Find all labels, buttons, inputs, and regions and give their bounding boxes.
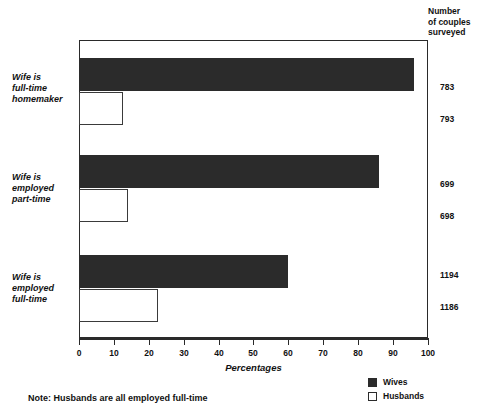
category-label-line: Wife is [12,172,78,183]
x-axis-tick-label: 100 [421,348,435,358]
category-label-line: full-time [12,83,78,94]
x-axis-tick-label: 0 [77,348,82,358]
category-label-full-time: Wife is employed full-time [12,272,78,305]
legend-swatch-icon-husbands [368,392,377,401]
count-husbands-homemaker: 793 [440,114,484,124]
category-label-line: Wife is [12,272,78,283]
x-axis-tick-label: 70 [318,348,327,358]
x-axis-tick-label: 80 [353,348,362,358]
category-label-homemaker: Wife is full-time homemaker [12,72,78,105]
count-wives-full-time: 1194 [440,270,484,280]
x-axis-tick-label: 90 [388,348,397,358]
legend-label-husbands: Husbands [383,391,424,401]
bar-wives-homemaker[interactable] [79,58,414,91]
count-husbands-part-time: 698 [440,211,484,221]
category-label-part-time: Wife is employed part-time [12,172,78,205]
x-axis-tick [149,338,150,345]
bar-chart-figure: Number of couples surveyed Wife is full-… [0,0,488,419]
x-axis-tick [428,338,429,345]
right-axis-header: Number of couples surveyed [428,6,486,38]
bar-wives-part-time[interactable] [79,155,379,188]
x-axis-tick [184,338,185,345]
legend-item-wives[interactable]: Wives [368,377,424,387]
bar-husbands-part-time[interactable] [79,189,128,222]
x-axis-tick-label: 50 [248,348,257,358]
count-husbands-full-time: 1186 [440,302,484,312]
x-axis-title: Percentages [79,362,428,373]
chart-note: Note: Husbands are all employed full-tim… [28,393,208,403]
bar-husbands-homemaker[interactable] [79,92,123,125]
category-label-line: Wife is [12,72,78,83]
x-axis-tick-label: 60 [283,348,292,358]
x-axis-tick-label: 20 [144,348,153,358]
chart-legend: Wives Husbands [368,377,424,405]
category-label-line: employed [12,183,78,194]
x-axis-tick [358,338,359,345]
x-axis-tick [114,338,115,345]
legend-label-wives: Wives [383,377,408,387]
x-axis-tick [253,338,254,345]
x-axis-tick [219,338,220,345]
category-label-line: full-time [12,294,78,305]
legend-item-husbands[interactable]: Husbands [368,391,424,401]
category-label-line: part-time [12,194,78,205]
bar-wives-full-time[interactable] [79,255,288,288]
right-axis-header-line3: surveyed [428,27,486,38]
right-axis-header-line1: Number [428,6,486,17]
bar-husbands-full-time[interactable] [79,289,158,322]
category-label-line: homemaker [12,94,78,105]
x-axis-tick [393,338,394,345]
x-axis-tick [323,338,324,345]
category-label-line: employed [12,283,78,294]
x-axis-tick-label: 10 [109,348,118,358]
x-axis-tick-label: 40 [214,348,223,358]
count-wives-homemaker: 783 [440,82,484,92]
x-axis-tick-label: 30 [179,348,188,358]
right-axis-header-line2: of couples [428,17,486,28]
legend-swatch-icon-wives [368,378,377,387]
x-axis-tick [79,338,80,345]
x-axis-tick [288,338,289,345]
count-wives-part-time: 699 [440,179,484,189]
